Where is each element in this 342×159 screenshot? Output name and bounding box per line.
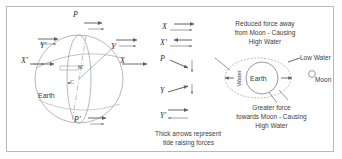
label-point-X: X <box>120 57 125 65</box>
legend-caption-line1: Thick arrows represent <box>155 130 221 138</box>
note-near-line3: High Water <box>214 122 329 130</box>
label-water: Water <box>236 70 244 86</box>
label-point-X-prime: X' <box>21 57 28 65</box>
label-earth-globe: Earth <box>38 92 55 100</box>
label-center-C: C <box>70 79 74 87</box>
force-arrows-on-globe <box>30 23 147 124</box>
leader-reduced-force <box>215 58 230 70</box>
label-point-P: P <box>73 11 78 19</box>
note-far-line2: from Moon - Causing <box>210 29 320 37</box>
label-point-Y: Y <box>111 43 115 51</box>
legend-label-Y: Y <box>160 87 164 95</box>
vector-legend-arrows <box>168 24 194 118</box>
label-earth-small: Earth <box>250 75 267 83</box>
leader-low-water-2 <box>288 58 300 62</box>
legend-P-arrow-1 <box>170 60 188 68</box>
label-angle-theta: θΓ <box>78 64 84 72</box>
earth-latitude-arc-lower <box>38 100 120 110</box>
note-far-line3: High Water <box>210 38 320 46</box>
note-near-line1: Greater force <box>214 104 329 112</box>
legend-label-Y-prime: Y' <box>160 112 166 120</box>
legend-Y-arrow-1 <box>168 86 188 92</box>
legend-caption-line2: tide raising forces <box>163 139 214 147</box>
leader-greater-force-b <box>279 90 288 100</box>
label-point-Y-prime: Y' <box>40 42 46 50</box>
note-near-line2: towards Moon - Causing <box>214 113 329 121</box>
legend-label-X: X <box>162 23 167 31</box>
legend-label-X-prime: X' <box>160 39 167 47</box>
tide-force-figure: P P' X X' Y Y' C θΓ Earth X X' P Y Y' Th… <box>0 0 342 159</box>
leader-greater-force-a <box>269 92 277 103</box>
legend-label-P: P <box>160 55 165 63</box>
label-low-water: Low Water <box>300 54 331 62</box>
label-moon: Moon <box>315 76 331 84</box>
note-far-line1: Reduced force away <box>210 20 320 28</box>
label-point-P-prime: P' <box>74 116 81 124</box>
earth-globe-group <box>35 35 123 123</box>
